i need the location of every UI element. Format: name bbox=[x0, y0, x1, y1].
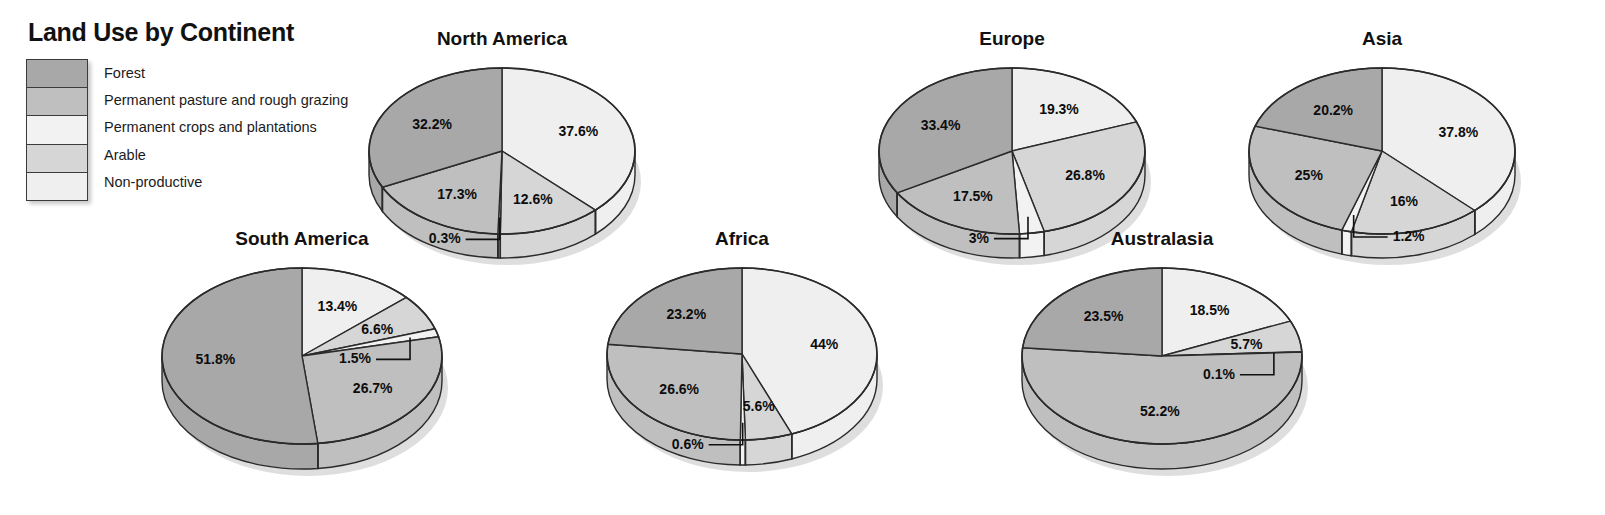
slice-value-label: 19.3% bbox=[1039, 101, 1079, 117]
slice-value-label: 37.8% bbox=[1439, 124, 1479, 140]
legend: Land Use by Continent ForestPermanent pa… bbox=[26, 18, 386, 201]
chart-title: Land Use by Continent bbox=[28, 18, 386, 47]
slice-value-label: 12.6% bbox=[513, 191, 553, 207]
pie-title: Africa bbox=[592, 228, 892, 250]
legend-swatch bbox=[27, 88, 87, 116]
slice-value-label: 5.7% bbox=[1231, 336, 1263, 352]
slice-value-label: 33.4% bbox=[921, 117, 961, 133]
slice-value-label: 23.5% bbox=[1084, 308, 1124, 324]
slice-value-label: 20.2% bbox=[1313, 102, 1353, 118]
slice-value-label: 0.1% bbox=[1203, 366, 1235, 382]
slice-value-label: 52.2% bbox=[1140, 403, 1180, 419]
slice-value-label: 1.2% bbox=[1393, 228, 1425, 244]
pie-title: Australasia bbox=[1012, 228, 1312, 250]
slice-value-label: 17.5% bbox=[953, 188, 993, 204]
pie-top-face bbox=[1249, 68, 1515, 234]
legend-label-column: ForestPermanent pasture and rough grazin… bbox=[104, 59, 348, 196]
pie-svg: 13.4%6.6%1.5%26.7%51.8% bbox=[152, 254, 452, 478]
slice-value-label: 26.8% bbox=[1065, 167, 1105, 183]
pie-wall-segment bbox=[1342, 230, 1352, 256]
pie-top-face bbox=[369, 68, 635, 234]
slice-value-label: 51.8% bbox=[195, 351, 235, 367]
slice-value-label: 26.6% bbox=[659, 381, 699, 397]
slice-value-label: 3% bbox=[969, 230, 990, 246]
pie-svg: 18.5%5.7%0.1%52.2%23.5% bbox=[1012, 254, 1312, 478]
slice-value-label: 18.5% bbox=[1190, 302, 1230, 318]
legend-swatch-column bbox=[26, 59, 88, 201]
slice-value-label: 37.6% bbox=[558, 123, 598, 139]
slice-value-label: 0.6% bbox=[672, 436, 704, 452]
pie-title: Asia bbox=[1232, 28, 1532, 50]
slice-value-label: 32.2% bbox=[412, 116, 452, 132]
slice-value-label: 44% bbox=[810, 336, 839, 352]
legend-swatch bbox=[27, 145, 87, 173]
pie-top-face bbox=[879, 68, 1145, 234]
slice-value-label: 25% bbox=[1295, 167, 1324, 183]
legend-item-label: Permanent crops and plantations bbox=[104, 114, 348, 141]
pie-title: Europe bbox=[862, 28, 1162, 50]
pie-svg: 44%5.6%0.6%26.6%23.2% bbox=[592, 254, 892, 478]
pie-chart-africa: Africa44%5.6%0.6%26.6%23.2% bbox=[592, 228, 892, 478]
pie-title: South America bbox=[152, 228, 452, 250]
pie-title: North America bbox=[352, 28, 652, 50]
slice-value-label: 1.5% bbox=[339, 350, 371, 366]
slice-value-label: 26.7% bbox=[353, 380, 393, 396]
legend-item-label: Non-productive bbox=[104, 169, 348, 196]
legend-item-label: Permanent pasture and rough grazing bbox=[104, 87, 348, 114]
chart-canvas: Land Use by Continent ForestPermanent pa… bbox=[0, 0, 1605, 515]
legend-item-label: Forest bbox=[104, 60, 348, 87]
slice-value-label: 13.4% bbox=[318, 298, 358, 314]
slice-value-label: 6.6% bbox=[361, 321, 393, 337]
pie-chart-australasia: Australasia18.5%5.7%0.1%52.2%23.5% bbox=[1012, 228, 1312, 478]
slice-value-label: 16% bbox=[1390, 193, 1419, 209]
legend-swatch bbox=[27, 116, 87, 144]
slice-value-label: 5.6% bbox=[743, 398, 775, 414]
slice-value-label: 23.2% bbox=[666, 306, 706, 322]
pie-chart-south-america: South America13.4%6.6%1.5%26.7%51.8% bbox=[152, 228, 452, 478]
slice-value-label: 17.3% bbox=[437, 186, 477, 202]
legend-item-label: Arable bbox=[104, 142, 348, 169]
legend-swatch bbox=[27, 173, 87, 200]
legend-swatch bbox=[27, 60, 87, 88]
